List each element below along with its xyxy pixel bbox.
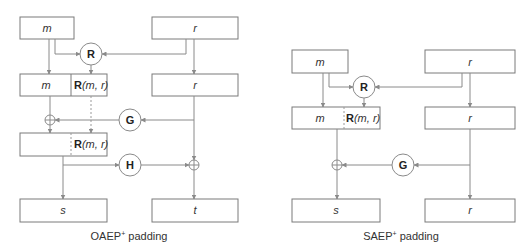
saep-box-m-label: m bbox=[315, 56, 324, 68]
oaep-g-hash-label: G bbox=[126, 114, 135, 126]
oaep-row2-rmr: R(m, r) bbox=[74, 79, 109, 91]
oaep-caption: OAEP+ padding bbox=[91, 230, 168, 242]
oaep-h-hash-label: H bbox=[126, 159, 134, 171]
oaep-xor-2-icon bbox=[189, 160, 199, 170]
oaep-row3-rmr: R(m, r) bbox=[74, 138, 109, 150]
saep-row2-m: m bbox=[315, 112, 324, 124]
saep-caption: SAEP+ padding bbox=[363, 230, 439, 242]
oaep-box-s-label: s bbox=[60, 204, 66, 216]
oaep-plus-diagram: m r R m R(m, r) r G bbox=[20, 17, 238, 242]
saep-row2-rmr: R(m, r) bbox=[346, 112, 381, 124]
saep-xor-icon bbox=[332, 160, 342, 170]
oaep-xor-1-icon bbox=[45, 115, 55, 125]
oaep-box-m-label: m bbox=[42, 22, 51, 34]
saep-plus-diagram: m r R m R(m, r) r G s r SAEP+ padding bbox=[292, 50, 515, 242]
oaep-row2-m: m bbox=[41, 79, 50, 91]
oaep-r-hash-label: R bbox=[87, 48, 95, 60]
saep-r-hash-label: R bbox=[360, 81, 368, 93]
saep-g-hash-label: G bbox=[399, 159, 408, 171]
saep-box-s-label: s bbox=[333, 204, 339, 216]
padding-diagrams: m r R m R(m, r) r G bbox=[0, 0, 530, 251]
